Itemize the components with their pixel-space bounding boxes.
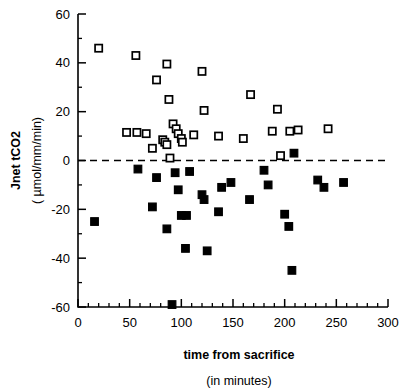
data-point-open	[123, 129, 130, 136]
data-point-filled	[182, 245, 190, 253]
data-point-open	[149, 145, 156, 152]
data-point-open	[163, 60, 170, 67]
axis-spines	[78, 14, 388, 307]
y-tick-label: 60	[56, 7, 70, 22]
y-axis-subtitle: ( µmol/mm/min)	[30, 117, 44, 204]
data-point-open	[95, 45, 102, 52]
data-point-filled	[264, 181, 272, 189]
data-point-open	[190, 131, 197, 138]
data-point-filled	[171, 169, 179, 177]
data-point-filled	[153, 174, 161, 182]
data-point-filled	[260, 166, 268, 174]
x-axis-title: time from sacrifice	[183, 348, 294, 362]
data-point-open	[240, 135, 247, 142]
data-point-filled	[285, 223, 293, 231]
y-tick-label: -20	[51, 202, 70, 217]
series-filled-squares	[91, 149, 348, 308]
x-tick-label: 100	[170, 315, 192, 330]
x-tick-label: 200	[274, 315, 296, 330]
data-point-filled	[314, 176, 322, 184]
x-tick-label: 0	[74, 315, 81, 330]
series-open-squares	[95, 45, 332, 162]
data-point-filled	[340, 179, 348, 187]
y-tick-label: 40	[56, 55, 70, 70]
chart-canvas: -60-40-200204060050100150200250300time f…	[0, 0, 412, 391]
data-point-open	[163, 141, 170, 148]
x-tick-label: 300	[377, 315, 399, 330]
data-point-filled	[168, 301, 176, 309]
y-tick-label: -40	[51, 251, 70, 266]
y-tick-label: 20	[56, 104, 70, 119]
data-point-open	[179, 139, 186, 146]
data-point-open	[295, 126, 302, 133]
data-point-open	[286, 128, 293, 135]
data-point-open	[247, 91, 254, 98]
data-point-open	[324, 125, 331, 132]
data-point-filled	[320, 184, 328, 192]
data-point-open	[269, 128, 276, 135]
data-point-open	[277, 152, 284, 159]
data-point-filled	[218, 184, 226, 192]
scatter-plot-figure: -60-40-200204060050100150200250300time f…	[0, 0, 412, 391]
data-point-open	[165, 96, 172, 103]
data-point-open	[143, 130, 150, 137]
data-point-filled	[281, 210, 289, 218]
data-point-filled	[183, 212, 191, 220]
y-tick-label: -60	[51, 300, 70, 315]
data-point-filled	[91, 218, 99, 226]
data-point-open	[166, 154, 173, 161]
data-point-filled	[134, 165, 142, 173]
x-tick-label: 150	[222, 315, 244, 330]
x-axis-subtitle: (in minutes)	[206, 374, 271, 388]
data-point-open	[153, 76, 160, 83]
axes-layer	[78, 14, 388, 307]
data-point-open	[274, 106, 281, 113]
data-point-open	[198, 68, 205, 75]
data-point-filled	[186, 168, 194, 176]
data-point-filled	[290, 149, 298, 157]
x-tick-label: 250	[325, 315, 347, 330]
data-point-filled	[215, 208, 223, 216]
data-point-filled	[246, 196, 254, 204]
data-point-filled	[163, 225, 171, 233]
data-point-filled	[200, 196, 208, 204]
x-tick-label: 50	[122, 315, 136, 330]
data-point-open	[132, 52, 139, 59]
data-point-open	[215, 132, 222, 139]
data-points-layer	[91, 45, 348, 309]
data-point-open	[200, 107, 207, 114]
data-point-filled	[227, 179, 235, 187]
data-point-filled	[203, 247, 211, 255]
data-point-filled	[288, 267, 296, 275]
data-point-open	[133, 129, 140, 136]
y-axis-title: Jnet tCO2	[9, 131, 23, 190]
data-point-filled	[149, 203, 157, 211]
y-tick-label: 0	[63, 153, 70, 168]
data-point-filled	[174, 186, 182, 194]
